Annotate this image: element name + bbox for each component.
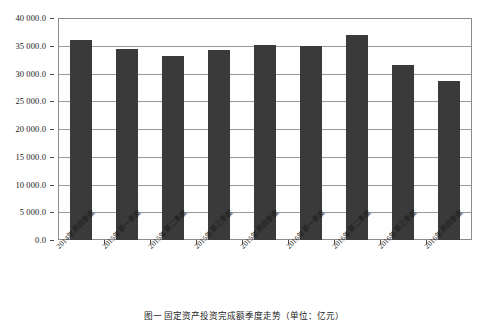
y-tick-label: 35 000.0 bbox=[15, 42, 46, 51]
y-tick-mark bbox=[50, 129, 54, 130]
y-tick-label: 10 000.0 bbox=[15, 181, 46, 190]
y-axis: 0.05 000.010 000.015 000.020 000.025 000… bbox=[0, 0, 56, 260]
y-tick-mark bbox=[50, 240, 54, 241]
y-tick-label: 5 000.0 bbox=[20, 208, 46, 217]
y-tick-label: 40 000.0 bbox=[15, 14, 46, 23]
y-tick-mark bbox=[50, 185, 54, 186]
y-tick-mark bbox=[50, 101, 54, 102]
y-tick-mark bbox=[50, 18, 54, 19]
figure-caption: 图一 固定资产投资完成额季度走势（单位：亿元） bbox=[0, 311, 488, 323]
y-tick-label: 30 000.0 bbox=[15, 70, 46, 79]
y-tick-mark bbox=[50, 46, 54, 47]
figure-bar-chart: 0.05 000.010 000.015 000.020 000.025 000… bbox=[0, 0, 488, 323]
y-tick-label: 15 000.0 bbox=[15, 153, 46, 162]
bar-series bbox=[58, 18, 472, 240]
y-tick-mark bbox=[50, 212, 54, 213]
y-tick-label: 25 000.0 bbox=[15, 97, 46, 106]
y-tick-mark bbox=[50, 74, 54, 75]
x-axis: 2014年第四季度2015年第一季度2015年第二季度2015年第三季度2015… bbox=[0, 243, 488, 305]
y-tick-label: 20 000.0 bbox=[15, 125, 46, 134]
y-tick-mark bbox=[50, 157, 54, 158]
